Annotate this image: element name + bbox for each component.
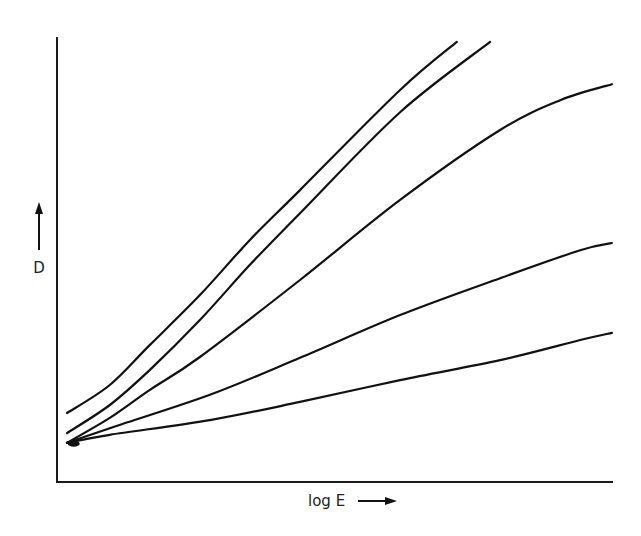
x-axis-arrow-head-icon xyxy=(385,497,397,505)
y-axis-label: D xyxy=(33,259,45,277)
curves-convergence-point xyxy=(68,441,80,447)
y-axis-label-group: D xyxy=(33,202,45,277)
characteristic-curves-chart: D log E xyxy=(0,0,641,536)
series-line-curve-1 xyxy=(67,42,457,413)
x-axis-label: log E xyxy=(308,492,345,510)
series-line-curve-5 xyxy=(67,333,612,443)
x-axis-label-group: log E xyxy=(308,492,397,510)
series-line-curve-4 xyxy=(67,243,612,443)
series-layer xyxy=(67,42,612,447)
y-axis-arrow-head-icon xyxy=(35,202,43,214)
series-line-curve-3 xyxy=(67,84,612,443)
